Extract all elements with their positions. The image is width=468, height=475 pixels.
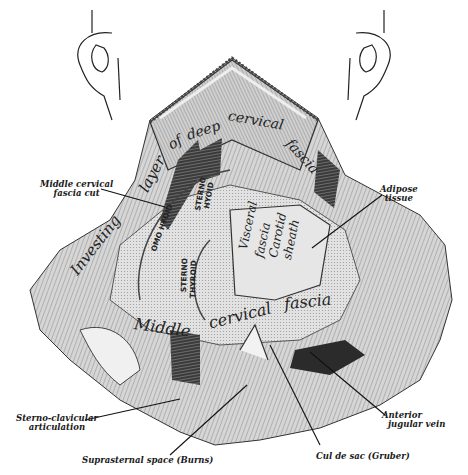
callout-suprasternal-space: Suprasternal space (Burns) [82,456,213,465]
callout-line-2: articulation [16,423,98,432]
right-ear [348,10,390,120]
callout-anterior-jugular-vein: Anterior jugular vein [382,411,445,429]
callout-middle-cervical-fascia-cut: Middle cervical fascia cut [40,180,113,198]
callout-line-2: fascia cut [40,189,113,198]
label-sterno-thyroid-2: THYROID [189,260,198,298]
callout-cul-de-sac: Cul de sac (Gruber) [316,452,410,461]
left-ear [78,10,120,120]
callout-line-2: tissue [380,194,418,203]
callout-adipose-tissue: Adipose tissue [380,185,418,203]
neck-section-illustration [0,0,468,475]
callout-line-2: jugular vein [382,420,445,429]
anatomy-figure: Investing layer of deep cervical fascia … [0,0,468,475]
callout-sterno-clavicular-articulation: Sterno-clavicular articulation [16,414,98,432]
